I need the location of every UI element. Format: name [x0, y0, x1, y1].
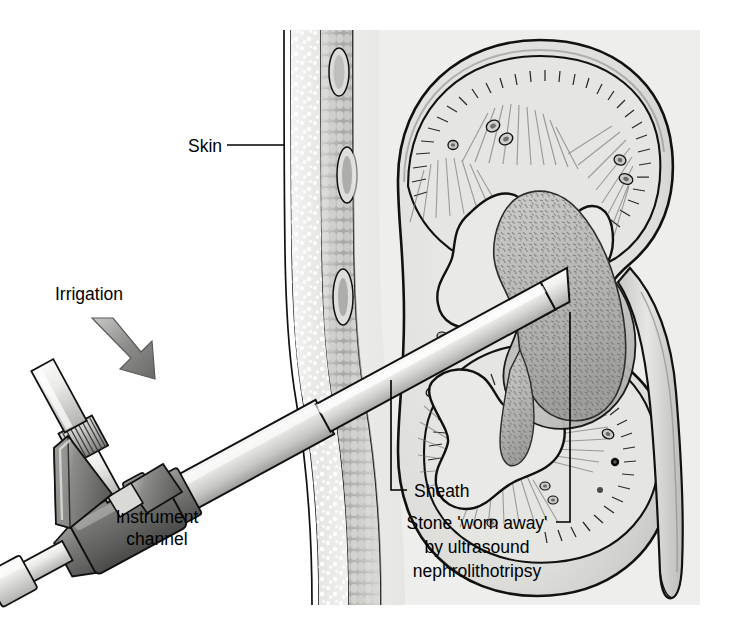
muscle-oval-core — [334, 55, 345, 89]
stone-label-line3: nephrolithotripsy — [413, 561, 542, 581]
vessel-lumen — [613, 460, 617, 464]
sheath-label: Sheath — [414, 481, 469, 501]
irrigation-label: Irrigation — [55, 284, 123, 304]
scope-handle-assembly — [0, 332, 204, 622]
arrow-shape — [92, 318, 155, 379]
instrument-channel-label-line1: Instrument — [116, 507, 199, 527]
stone-label-line2: by ultrasound — [424, 537, 529, 557]
muscle-oval-core — [342, 156, 352, 194]
stone-label-line1: Stone 'worn away' — [407, 513, 548, 533]
vessel — [597, 487, 603, 493]
instrument-channel-label-line2: channel — [126, 529, 187, 549]
illustration-canvas: Skin Irrigation Instrument channel Sheat… — [0, 0, 731, 635]
vessel-lumen — [551, 498, 555, 501]
muscle-oval-core — [338, 278, 348, 316]
irrigation-flow-arrow — [92, 318, 155, 379]
medical-illustration-figure: Skin Irrigation Instrument channel Sheat… — [0, 0, 731, 635]
skin-label: Skin — [188, 136, 222, 156]
vessel-lumen — [451, 143, 455, 147]
vessel-lumen — [543, 484, 547, 487]
